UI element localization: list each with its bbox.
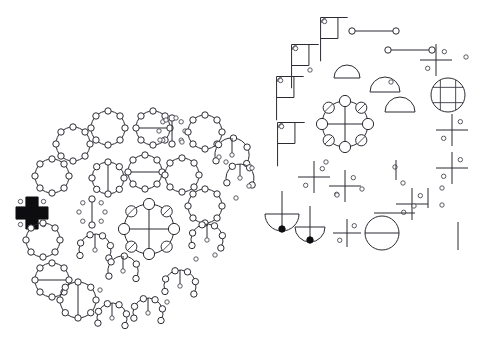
ring-node: [179, 155, 185, 161]
glyph-dots8: [77, 196, 107, 228]
arc-node: [133, 261, 139, 267]
stem-node: [121, 269, 125, 273]
ring-node: [185, 129, 191, 135]
scatter-node: [308, 68, 312, 72]
ring-node: [219, 203, 225, 209]
ring-node: [88, 310, 94, 316]
arc-node: [87, 232, 93, 238]
quadrant-node: [418, 193, 422, 197]
arc-node: [244, 144, 250, 150]
ring-node: [93, 297, 99, 303]
stem-node: [205, 238, 209, 242]
ring-node: [32, 173, 38, 179]
ring-node: [202, 146, 208, 152]
scatter-node: [174, 116, 178, 120]
glyph-ring8-hbar: [125, 152, 165, 192]
ring-node: [49, 190, 55, 196]
scatter-node: [440, 203, 444, 207]
scatter-node: [401, 181, 405, 185]
ring-node: [49, 156, 55, 162]
connector-end-node: [89, 196, 95, 202]
arc-node: [162, 276, 168, 282]
ring-node: [118, 223, 129, 234]
ring-node: [162, 172, 168, 178]
bar-end-node: [385, 47, 391, 53]
ring-node: [130, 157, 136, 163]
ring-node: [117, 113, 123, 119]
ring-node: [179, 189, 185, 195]
ring-node: [196, 172, 202, 178]
ring-node: [116, 163, 122, 169]
free-node: [81, 201, 85, 205]
ring-node: [82, 129, 88, 135]
ring-node: [105, 108, 111, 114]
ring-node: [61, 265, 67, 271]
ring-node: [150, 142, 156, 148]
ring-node: [130, 181, 136, 187]
arc-node: [95, 308, 101, 314]
ring-node: [93, 137, 99, 143]
arc-node: [131, 315, 137, 321]
ring-node: [191, 184, 197, 190]
glyph-ring8-cross: [316, 95, 373, 152]
arc-node: [162, 288, 168, 294]
arc-node: [172, 268, 178, 274]
stem-tip-node: [279, 226, 285, 232]
glyph-ring8-vbar: [89, 159, 127, 197]
ring-node: [190, 215, 196, 221]
ring-node: [40, 220, 46, 226]
quadrant-node: [425, 66, 429, 70]
bar-end-node: [349, 28, 355, 34]
ring-node: [61, 161, 67, 167]
stem-node: [146, 311, 150, 315]
arc-node: [230, 135, 236, 141]
arc-node: [189, 230, 195, 236]
arc-node: [191, 291, 197, 297]
ring-node: [202, 186, 208, 192]
ring-node: [89, 175, 95, 181]
scatter-node: [247, 184, 251, 188]
quadrant-node: [401, 210, 405, 214]
quadrant-node: [458, 157, 462, 161]
ring-node: [57, 237, 63, 243]
bar-end-node: [429, 47, 435, 53]
free-node: [99, 219, 103, 223]
flag-node: [293, 46, 297, 50]
ring-node: [185, 203, 191, 209]
scatter-node: [234, 196, 238, 200]
arc-node: [215, 141, 221, 147]
quadrant-node: [41, 199, 45, 203]
glyph-ring8-cross: [118, 198, 179, 259]
glyph-ring8-vbar: [57, 279, 99, 321]
ring-node: [75, 315, 81, 321]
ring-node: [168, 223, 179, 234]
ring-node: [88, 125, 94, 131]
arc-node: [77, 240, 83, 246]
arc-node: [108, 259, 114, 265]
ring-node: [105, 142, 111, 148]
arc-node: [224, 180, 230, 186]
quadrant-node: [320, 166, 324, 170]
free-node: [157, 129, 161, 133]
ring-node: [339, 141, 350, 152]
ring-node: [190, 191, 196, 197]
ring-node: [88, 284, 94, 290]
ring-node: [214, 191, 220, 197]
arc-node: [123, 311, 129, 317]
stem-node: [110, 316, 114, 320]
ring-node: [87, 141, 93, 147]
ring-node: [37, 161, 43, 167]
scatter-node: [180, 140, 184, 144]
ring-node: [214, 215, 220, 221]
ring-node: [82, 153, 88, 159]
free-node: [179, 120, 183, 124]
arc-node: [219, 232, 225, 238]
ring-node: [339, 95, 350, 106]
quadrant-node: [18, 222, 22, 226]
ring-node: [138, 113, 144, 119]
arc-node: [131, 303, 137, 309]
ring-node: [190, 117, 196, 123]
ring-node: [58, 129, 64, 135]
scatter-node: [393, 165, 397, 169]
ring-node: [190, 141, 196, 147]
